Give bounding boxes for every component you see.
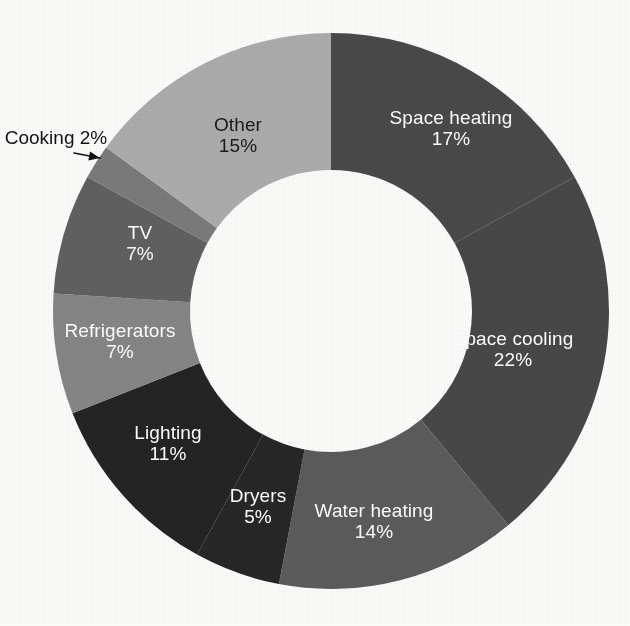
slice-label-name-space-heating: Space heating	[390, 107, 513, 128]
slice-label-name-space-cooling: Space cooling	[453, 328, 574, 349]
cooking-callout-percent: 2%	[80, 127, 107, 148]
slice-label-percent-space-cooling: 22%	[453, 349, 574, 370]
slice-label-dryers: Dryers5%	[230, 485, 287, 528]
cooking-callout-label: Cooking 2%	[5, 127, 107, 148]
slice-label-name-dryers: Dryers	[230, 485, 287, 506]
slice-label-refrigerators: Refrigerators7%	[64, 320, 175, 363]
slice-label-name-tv: TV	[126, 222, 154, 243]
slice-label-tv: TV7%	[126, 222, 154, 265]
slice-label-percent-other: 15%	[214, 135, 262, 156]
slice-label-water-heating: Water heating14%	[315, 500, 434, 543]
slice-label-percent-lighting: 11%	[134, 443, 201, 464]
slice-label-name-refrigerators: Refrigerators	[64, 320, 175, 341]
slice-label-percent-space-heating: 17%	[390, 128, 513, 149]
slice-label-percent-water-heating: 14%	[315, 521, 434, 542]
slice-label-name-lighting: Lighting	[134, 422, 201, 443]
slice-label-lighting: Lighting11%	[134, 422, 201, 465]
cooking-callout-name: Cooking	[5, 127, 75, 148]
slice-label-space-heating: Space heating17%	[390, 107, 513, 150]
slice-label-percent-refrigerators: 7%	[64, 341, 175, 362]
slice-label-percent-dryers: 5%	[230, 506, 287, 527]
slice-label-space-cooling: Space cooling22%	[453, 328, 574, 371]
slice-label-name-other: Other	[214, 114, 262, 135]
slice-label-name-water-heating: Water heating	[315, 500, 434, 521]
slice-label-other: Other15%	[214, 114, 262, 157]
donut-chart-figure: Space heating17%Space cooling22%Water he…	[0, 0, 630, 626]
slice-label-percent-tv: 7%	[126, 243, 154, 264]
